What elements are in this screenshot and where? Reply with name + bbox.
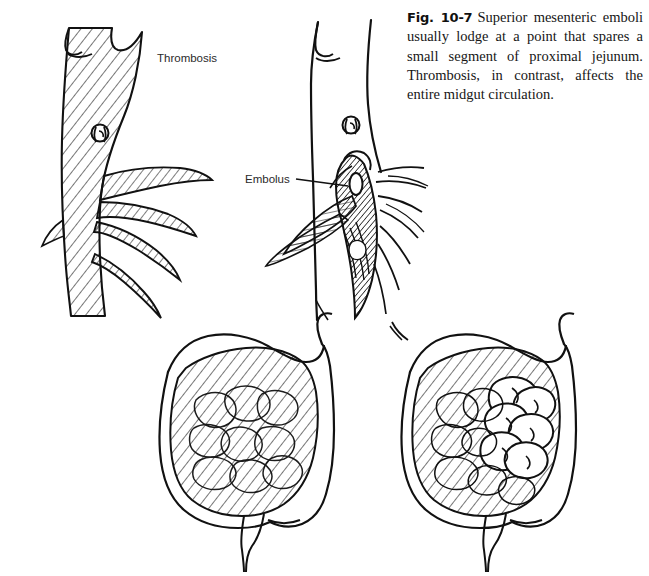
figure-caption: Fig. 10-7Superior mesenteric emboli usua…: [407, 8, 643, 104]
figure-page: Thrombosis: [0, 0, 649, 576]
spared-jejunum-loops: [480, 377, 555, 478]
ischemic-left-branch: [266, 214, 348, 266]
thrombosis-left-branch: [42, 220, 64, 246]
embolus-mass: [336, 151, 377, 318]
thrombosis-label: Thrombosis: [157, 52, 217, 64]
ischemic-branch-fan: [374, 167, 428, 314]
vessel-lumen-marker-right: [343, 117, 360, 135]
vessel-lumen-marker-left: [92, 125, 109, 143]
thrombosis-bowel-diagram: [159, 313, 334, 572]
embolus-bowel-diagram: [390, 313, 576, 572]
thrombosis-branch-3: [94, 222, 180, 280]
thrombosis-vessel-diagram: Thrombosis: [42, 28, 217, 318]
thrombosis-branch-1: [100, 167, 212, 200]
embolus-label: Embolus: [245, 173, 290, 185]
figure-number: Fig. 10-7: [407, 10, 472, 25]
embolus-vessel-diagram: Embolus: [245, 20, 428, 320]
